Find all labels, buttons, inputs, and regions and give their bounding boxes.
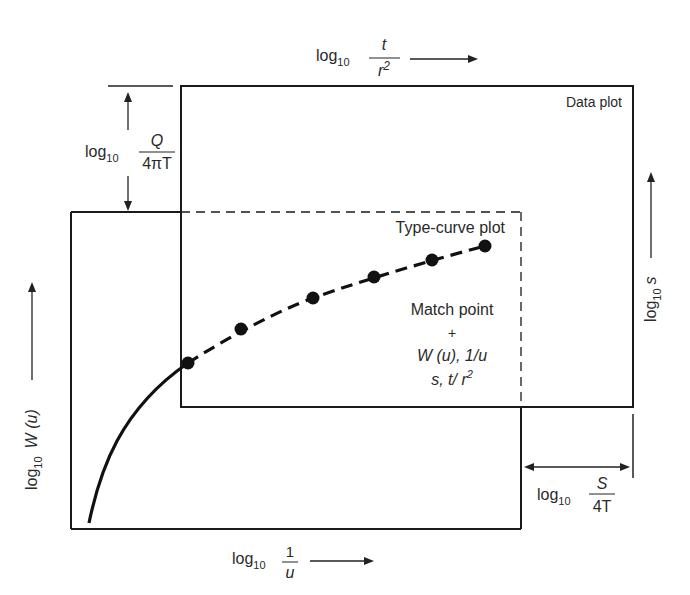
- svg-text:r2: r2: [378, 59, 390, 79]
- data-plot-frame: [181, 86, 633, 407]
- svg-text:log10W (u): log10W (u): [23, 409, 44, 490]
- data-point: [235, 323, 248, 336]
- data-point: [182, 357, 195, 370]
- type-curve-solid: [89, 363, 188, 523]
- data-point: [426, 254, 439, 267]
- type-curve-diagram: Data plot Type-curve plot Match point + …: [0, 0, 690, 595]
- svg-text:1: 1: [286, 543, 294, 560]
- svg-text:4πT: 4πT: [142, 155, 172, 172]
- horizontal-offset-indicator: log10 S 4T: [524, 414, 633, 515]
- data-plot-y-axis-label: log10s: [642, 172, 663, 322]
- svg-text:log10: log10: [316, 47, 350, 68]
- match-point-title: Match point: [411, 301, 494, 318]
- data-plot-title: Data plot: [566, 94, 622, 110]
- svg-text:log10: log10: [85, 143, 119, 164]
- svg-text:S: S: [597, 475, 608, 492]
- match-point-line1: W (u), 1/u: [417, 347, 487, 364]
- svg-text:Q: Q: [151, 132, 163, 149]
- svg-text:4T: 4T: [593, 498, 612, 515]
- type-curve-plot-title: Type-curve plot: [396, 219, 506, 236]
- match-point-line2: s, t/ r2: [431, 368, 473, 388]
- svg-text:log10: log10: [537, 486, 571, 507]
- svg-text:t: t: [382, 36, 387, 53]
- vertical-offset-indicator: log10 Q 4πT: [85, 86, 175, 211]
- svg-text:log10: log10: [232, 550, 266, 571]
- data-point: [368, 271, 381, 284]
- match-point-marker: +: [448, 325, 456, 341]
- type-curve-y-axis-label: log10W (u): [23, 282, 44, 490]
- data-plot-x-axis-label: log10 t r2: [316, 36, 478, 79]
- match-point-annotation: Match point + W (u), 1/u s, t/ r2: [411, 301, 494, 388]
- svg-text:log10s: log10s: [642, 276, 663, 322]
- data-point: [307, 292, 320, 305]
- data-point: [479, 240, 492, 253]
- type-curve-x-axis-label: log10 1 u: [232, 543, 374, 581]
- svg-text:u: u: [286, 564, 295, 581]
